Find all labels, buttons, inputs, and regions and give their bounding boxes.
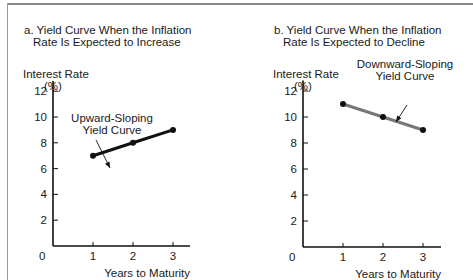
y-tick-label: 4 [41, 188, 48, 200]
chart-panel-a: Interest Rate(%)246810120123Years to Mat… [23, 68, 190, 279]
data-point [380, 114, 386, 120]
y-tick-label: 4 [291, 189, 298, 201]
data-point [130, 140, 136, 146]
curve-annotation: Downward-Sloping [357, 58, 454, 70]
y-tick-label: 2 [291, 215, 297, 227]
x-axis-label: Years to Maturity [355, 268, 441, 280]
y-tick-label: 6 [291, 163, 297, 175]
yield-curve-charts: Interest Rate(%)246810120123Years to Mat… [0, 0, 473, 280]
curve-annotation: Yield Curve [375, 70, 434, 82]
data-point [90, 153, 96, 159]
data-point [340, 101, 346, 107]
curve-annotation: Upward-Sloping [71, 112, 153, 124]
y-tick-label: 10 [34, 111, 47, 123]
x-tick-label: 2 [130, 250, 136, 262]
data-point [170, 127, 176, 133]
y-tick-label: 2 [41, 214, 47, 226]
x-tick-label: 1 [340, 251, 346, 263]
y-axis-label: Interest Rate [273, 68, 339, 80]
y-tick-label: 6 [41, 163, 47, 175]
x-tick-label: 0 [39, 250, 45, 262]
x-tick-label: 3 [420, 251, 426, 263]
y-tick-label: 8 [41, 137, 47, 149]
y-axis-label: Interest Rate [23, 68, 89, 80]
y-tick-label: 10 [284, 111, 297, 123]
chart-panel-b: Interest Rate(%)246810120123Years to Mat… [273, 58, 453, 280]
x-tick-label: 3 [170, 250, 176, 262]
y-tick-label: 12 [284, 85, 297, 97]
x-axis-label: Years to Maturity [104, 267, 190, 279]
x-tick-label: 1 [90, 250, 96, 262]
x-tick-label: 0 [289, 251, 295, 263]
curve-annotation: Yield Curve [82, 124, 141, 136]
data-point [420, 127, 426, 133]
y-tick-label: 8 [291, 137, 297, 149]
x-tick-label: 2 [380, 251, 386, 263]
y-tick-label: 12 [34, 85, 47, 97]
